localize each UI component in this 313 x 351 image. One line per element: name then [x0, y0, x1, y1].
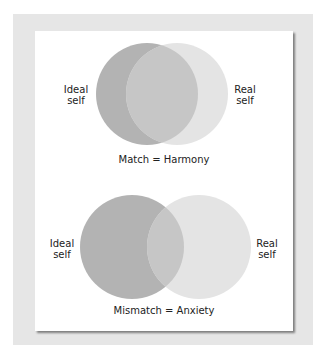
match-venn	[96, 43, 228, 145]
ideal-self-label: Ideal self	[46, 238, 78, 260]
ideal-label-line2: self	[46, 249, 78, 260]
mismatch-caption: Mismatch = Anxiety	[104, 305, 224, 317]
ideal-label-line1: Ideal	[60, 84, 92, 95]
ideal-label-line1: Ideal	[46, 238, 78, 249]
venn-diagrams	[0, 0, 313, 351]
real-label-line1: Real	[229, 84, 261, 95]
match-caption: Match = Harmony	[104, 154, 224, 166]
mismatch-venn	[80, 195, 251, 299]
real-label-line2: self	[229, 95, 261, 106]
real-self-label: Real self	[251, 238, 283, 260]
real-self-label: Real self	[229, 84, 261, 106]
real-label-line2: self	[251, 249, 283, 260]
ideal-self-label: Ideal self	[60, 84, 92, 106]
ideal-label-line2: self	[60, 95, 92, 106]
real-label-line1: Real	[251, 238, 283, 249]
